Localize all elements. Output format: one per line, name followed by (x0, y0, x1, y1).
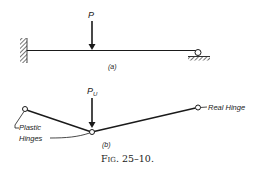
plastic-hinges-label-line2: Hinges (19, 134, 43, 143)
real-hinge-icon (196, 105, 201, 110)
plastic-hinge-left-icon (23, 107, 28, 112)
plastic-hinge-center-icon (90, 130, 95, 135)
right-segment (94, 108, 196, 132)
load-arrow-pu (89, 98, 96, 128)
load-label-pu: PU (87, 86, 98, 97)
plastic-hinges-label-line1: Plastic (19, 123, 41, 132)
fixed-wall-support-icon (20, 38, 27, 63)
plastic-hinge-leader-center (50, 133, 90, 138)
part-b-label: (b) (102, 141, 111, 149)
arrowhead-icon (89, 44, 96, 50)
load-arrow-p (89, 21, 96, 50)
caption-fig: Fig. (101, 153, 119, 164)
beam-collapse-figure: P (a) PU Real Hinge Plastic Hinges ( (0, 0, 266, 172)
load-label-p: P (88, 10, 94, 20)
real-hinge-label: Real Hinge (208, 103, 245, 112)
part-a-beam-diagram: P (a) (20, 10, 210, 71)
part-b-collapse-mechanism: PU Real Hinge Plastic Hinges (b) (15, 86, 245, 149)
figure-caption: Fig.25–10. (101, 153, 154, 164)
arrowhead-icon (89, 122, 96, 128)
real-hinge-leader (201, 107, 208, 108)
caption-number: 25–10. (122, 153, 154, 164)
part-a-label: (a) (108, 63, 117, 71)
load-subscript: U (93, 91, 98, 97)
roller-support-icon (188, 50, 210, 61)
